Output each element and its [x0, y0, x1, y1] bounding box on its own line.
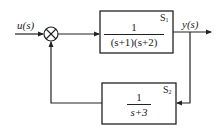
s1-subscript: 1: [166, 17, 169, 23]
s1-denominator: (s+1)(s+2): [104, 35, 164, 48]
s1-label: S1: [160, 13, 169, 23]
s2-transfer-function: 1 s+3: [127, 92, 151, 118]
output-label: y(s): [182, 19, 199, 30]
s2-subscript: 2: [169, 89, 172, 95]
s2-label: S2: [163, 85, 172, 95]
s1-numerator: 1: [104, 22, 164, 34]
s2-numerator: 1: [127, 92, 151, 104]
feedback-branch-line: [177, 32, 190, 103]
feedback-return-line: [51, 42, 102, 103]
s1-transfer-function: 1 (s+1)(s+2): [104, 22, 164, 48]
input-label: u(s): [17, 20, 34, 31]
s2-denominator: s+3: [127, 105, 151, 118]
summing-junction: [44, 27, 58, 41]
